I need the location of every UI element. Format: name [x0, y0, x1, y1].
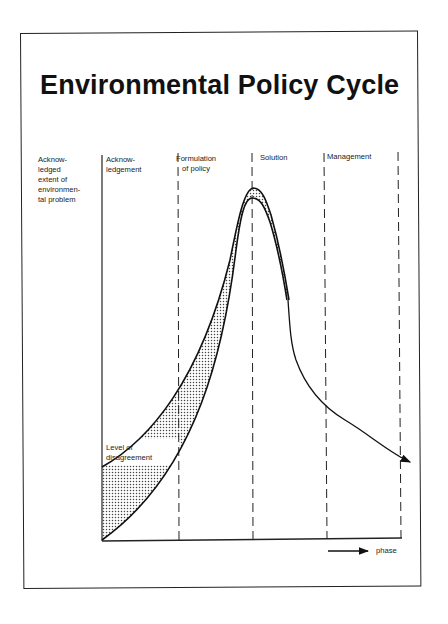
decline-curve [288, 300, 410, 462]
phase-divider-3 [324, 153, 327, 539]
phase-divider-2 [252, 153, 253, 540]
phase-divider-4 [398, 152, 401, 538]
disagreement-region [102, 188, 289, 540]
disagreement-label: Level of disagreement [106, 443, 152, 463]
outer-curve [102, 188, 289, 467]
phase-divider-1 [178, 153, 179, 540]
x-axis [102, 538, 402, 541]
x-axis-label: phase [376, 546, 397, 556]
policy-cycle-diagram [0, 0, 448, 624]
